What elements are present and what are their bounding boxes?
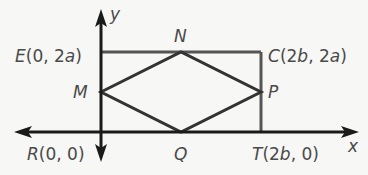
coordinate-diagram: y x E(0, 2a) C(2b, 2a) R(0, 0) T(2b, 0) … — [0, 0, 368, 175]
label-Q: Q — [174, 144, 187, 164]
label-R: R(0, 0) — [27, 144, 85, 164]
label-C: C(2b, 2a) — [268, 46, 347, 66]
quadrilateral-MNPQ — [101, 52, 261, 132]
label-M: M — [73, 82, 88, 102]
label-N: N — [174, 26, 187, 46]
y-axis — [95, 9, 107, 162]
x-axis-label: x — [347, 136, 359, 156]
y-axis-label: y — [109, 4, 121, 24]
rectangle-ECTR — [101, 52, 261, 132]
label-T: T(2b, 0) — [252, 144, 319, 164]
label-P: P — [268, 82, 279, 102]
label-E: E(0, 2a) — [15, 46, 82, 66]
